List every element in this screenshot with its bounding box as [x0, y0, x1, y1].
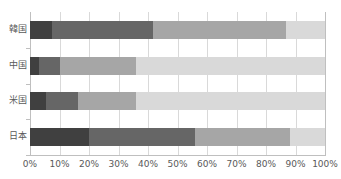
bar-segment-3 [78, 92, 136, 110]
category-label-2: 米国 [0, 96, 27, 105]
x-tick-label-80: 80% [256, 160, 276, 169]
x-tick-label-90: 90% [285, 160, 305, 169]
bar-segment-3 [195, 128, 289, 146]
bar-segment-4 [136, 57, 325, 75]
x-tick-label-10: 10% [49, 160, 69, 169]
x-tick-label-20: 20% [79, 160, 99, 169]
bar-segment-1 [30, 21, 52, 39]
category-tick [26, 119, 30, 120]
bar-segment-1 [30, 128, 89, 146]
x-tick-label-40: 40% [138, 160, 158, 169]
category-tick [26, 48, 30, 49]
gridline-100 [325, 12, 326, 155]
bar-segment-1 [30, 92, 46, 110]
category-tick [26, 84, 30, 85]
bar-segment-2 [39, 57, 61, 75]
x-tick-labels: 0%10%20%30%40%50%60%70%80%90%100% [0, 160, 341, 176]
x-axis-line [30, 155, 326, 156]
bar-row [30, 128, 325, 146]
bar-row [30, 21, 325, 39]
category-label-3: 日本 [0, 132, 27, 141]
x-tick-label-70: 70% [226, 160, 246, 169]
bar-segment-3 [60, 57, 136, 75]
x-tick-label-0: 0% [23, 160, 37, 169]
bar-row [30, 92, 325, 110]
bar-segment-4 [286, 21, 325, 39]
x-tick-label-100: 100% [312, 160, 338, 169]
x-tick-label-60: 60% [197, 160, 217, 169]
bar-segment-4 [290, 128, 325, 146]
bar-segment-4 [136, 92, 325, 110]
category-label-1: 中国 [0, 61, 27, 70]
bar-segment-2 [52, 21, 153, 39]
x-tick-label-30: 30% [108, 160, 128, 169]
x-tick-label-50: 50% [167, 160, 187, 169]
bar-segment-2 [89, 128, 195, 146]
bar-segment-3 [153, 21, 286, 39]
category-label-0: 韓国 [0, 25, 27, 34]
stacked-bar-chart: 韓国中国米国日本 0%10%20%30%40%50%60%70%80%90%10… [0, 0, 341, 179]
bar-row [30, 57, 325, 75]
bar-segment-2 [46, 92, 78, 110]
bar-segment-1 [30, 57, 39, 75]
plot-area [30, 12, 325, 155]
